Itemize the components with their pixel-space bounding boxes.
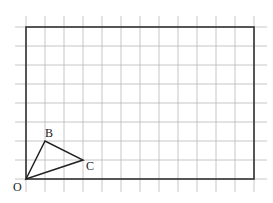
point-label-c: C bbox=[86, 159, 94, 173]
grid-diagram: O B C bbox=[0, 0, 273, 203]
point-label-o: O bbox=[13, 180, 22, 194]
point-label-b: B bbox=[45, 126, 53, 140]
grid-lines bbox=[15, 16, 267, 192]
